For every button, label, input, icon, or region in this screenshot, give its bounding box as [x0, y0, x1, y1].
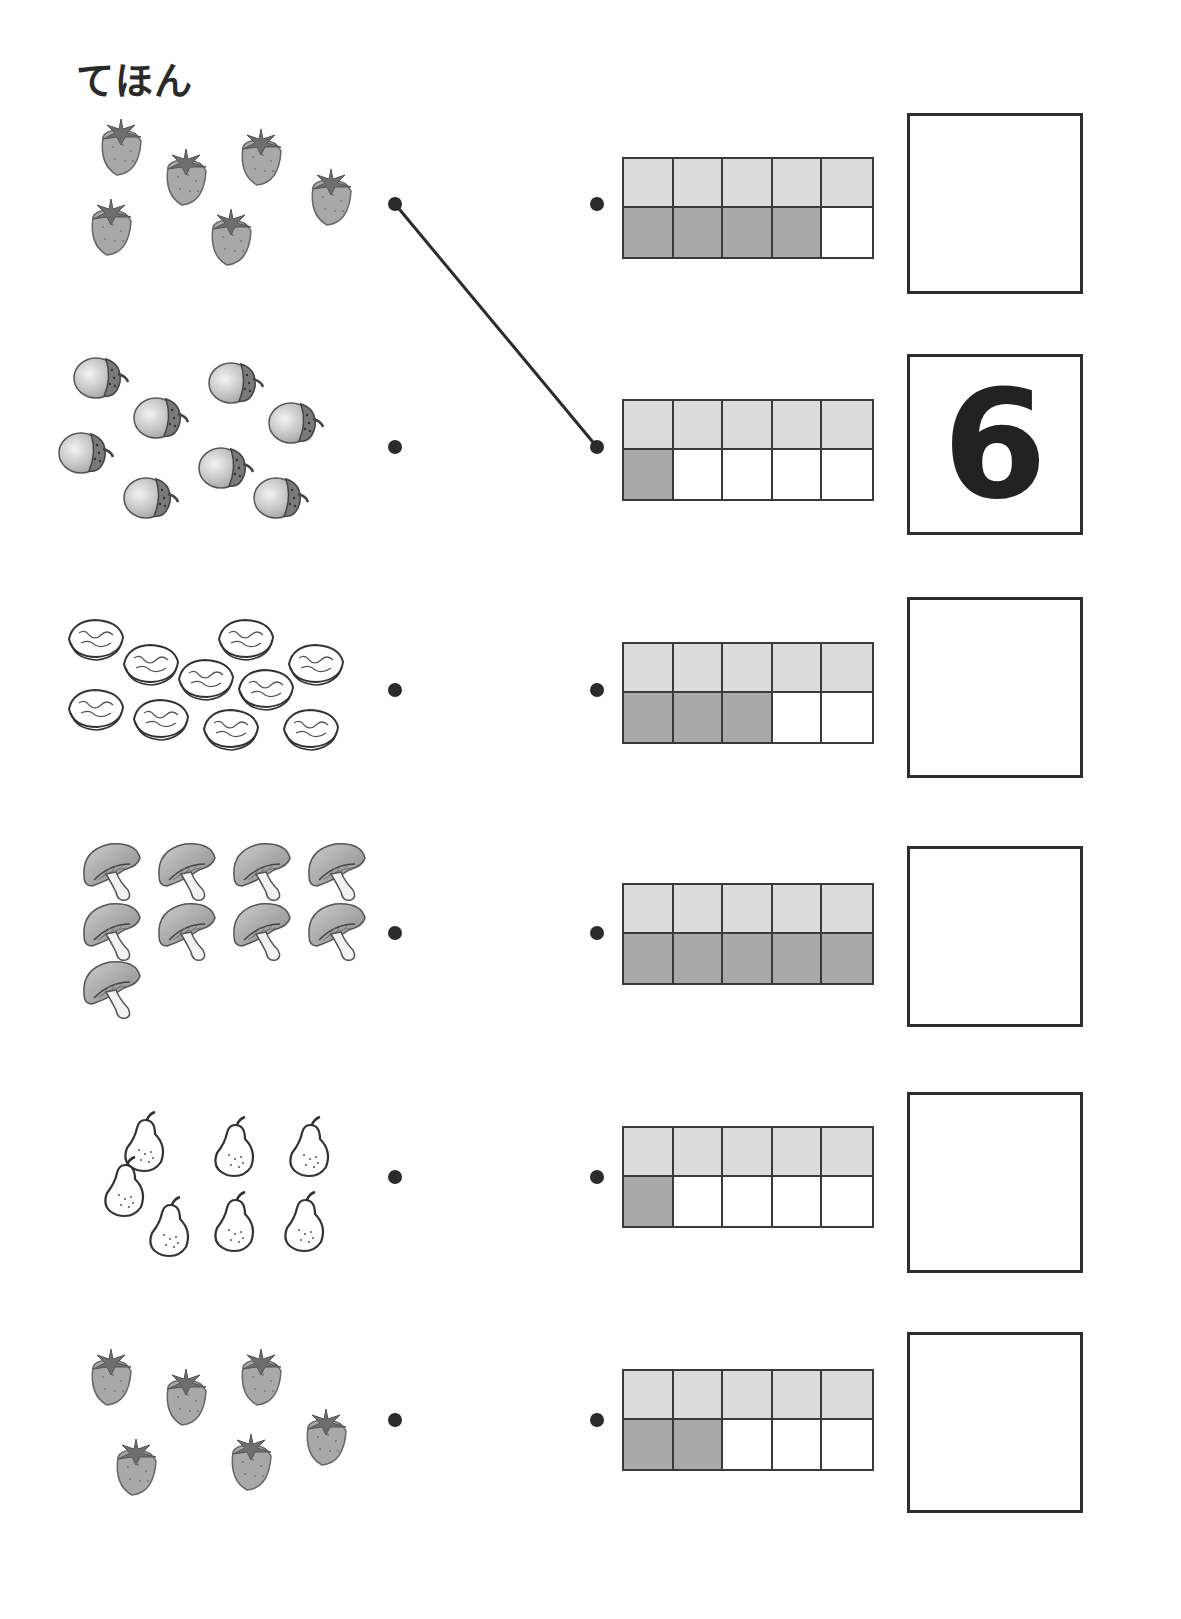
ten-frame	[622, 1369, 874, 1471]
left-match-dot[interactable]	[388, 1413, 402, 1427]
left-match-dot[interactable]	[388, 440, 402, 454]
ten-frame-cell-top	[822, 1371, 872, 1420]
picture-group-strawberry	[55, 1325, 375, 1525]
ten-frame-cell-top	[822, 1128, 872, 1177]
strawberry-icon	[235, 125, 287, 191]
acorn-icon	[195, 440, 257, 498]
ten-frame-cell-top	[822, 159, 872, 208]
right-match-dot[interactable]	[590, 1413, 604, 1427]
ten-frame-cell-top	[773, 1128, 823, 1177]
right-match-dot[interactable]	[590, 197, 604, 211]
answer-number: 6	[943, 370, 1047, 520]
ten-frame-cell-top	[723, 401, 773, 450]
mushroom-icon	[305, 900, 371, 970]
picture-group-strawberry	[55, 105, 375, 305]
ten-frame-cell-top	[822, 644, 872, 693]
picture-group-walnut	[55, 595, 375, 795]
ten-frame-cell-filled	[624, 934, 674, 983]
page-title: てほん	[76, 50, 193, 105]
acorn-icon	[70, 350, 132, 408]
ten-frame-cell-top	[674, 1371, 724, 1420]
strawberry-icon	[160, 1365, 212, 1431]
ten-frame-cell-top	[624, 644, 674, 693]
ten-frame-cell-empty	[674, 1177, 724, 1226]
strawberry-icon	[305, 165, 357, 231]
ten-frame-cell-top	[624, 1371, 674, 1420]
ten-frame-cell-top	[723, 885, 773, 934]
answer-box[interactable]: 6	[907, 354, 1083, 535]
right-match-dot[interactable]	[590, 440, 604, 454]
right-match-dot[interactable]	[590, 683, 604, 697]
ten-frame	[622, 399, 874, 501]
strawberry-icon	[300, 1405, 352, 1471]
ten-frame-cell-filled	[624, 1420, 674, 1469]
strawberry-icon	[110, 1435, 162, 1501]
acorn-icon	[250, 470, 312, 528]
walnut-icon	[65, 615, 127, 665]
ten-frame-cell-filled	[624, 208, 674, 257]
acorn-icon	[130, 390, 192, 448]
ten-frame-cell-filled	[674, 1420, 724, 1469]
picture-group-mushroom	[55, 830, 375, 1030]
ten-frame-cell-empty	[773, 450, 823, 499]
ten-frame-cell-empty	[822, 693, 872, 742]
ten-frame	[622, 157, 874, 259]
ten-frame-cell-top	[674, 885, 724, 934]
walnut-icon	[65, 685, 127, 735]
ten-frame-cell-filled	[674, 934, 724, 983]
pear-icon	[140, 1195, 200, 1265]
walnut-icon	[280, 705, 342, 755]
ten-frame-cell-filled	[723, 693, 773, 742]
pear-icon	[205, 1115, 265, 1185]
answer-box[interactable]	[907, 1092, 1083, 1273]
pear-icon	[275, 1190, 335, 1260]
ten-frame-cell-filled	[773, 934, 823, 983]
ten-frame-cell-top	[773, 644, 823, 693]
ten-frame-cell-empty	[773, 693, 823, 742]
ten-frame-cell-empty	[822, 1420, 872, 1469]
right-match-dot[interactable]	[590, 926, 604, 940]
walnut-icon	[130, 695, 192, 745]
ten-frame-cell-filled	[674, 693, 724, 742]
picture-group-acorn	[55, 330, 375, 530]
strawberry-icon	[85, 1345, 137, 1411]
ten-frame-cell-top	[773, 401, 823, 450]
strawberry-icon	[205, 205, 257, 271]
pear-icon	[280, 1115, 340, 1185]
answer-box[interactable]	[907, 597, 1083, 778]
left-match-dot[interactable]	[388, 683, 402, 697]
picture-group-pear	[55, 1090, 375, 1290]
mushroom-icon	[155, 900, 221, 970]
ten-frame-cell-filled	[624, 450, 674, 499]
ten-frame-cell-top	[674, 644, 724, 693]
ten-frame-cell-top	[674, 401, 724, 450]
ten-frame-cell-empty	[723, 1420, 773, 1469]
ten-frame-cell-empty	[822, 1177, 872, 1226]
ten-frame-cell-empty	[723, 1177, 773, 1226]
ten-frame-cell-top	[773, 1371, 823, 1420]
ten-frame-cell-empty	[822, 450, 872, 499]
ten-frame-cell-top	[624, 159, 674, 208]
left-match-dot[interactable]	[388, 926, 402, 940]
mushroom-icon	[80, 958, 146, 1028]
right-match-dot[interactable]	[590, 1170, 604, 1184]
left-match-dot[interactable]	[388, 1170, 402, 1184]
ten-frame-cell-filled	[773, 208, 823, 257]
ten-frame-cell-top	[674, 159, 724, 208]
strawberry-icon	[235, 1345, 287, 1411]
strawberry-icon	[160, 145, 212, 211]
ten-frame-cell-filled	[723, 208, 773, 257]
ten-frame-cell-top	[624, 1128, 674, 1177]
answer-box[interactable]	[907, 846, 1083, 1027]
ten-frame-cell-filled	[723, 934, 773, 983]
pear-icon	[205, 1190, 265, 1260]
mushroom-icon	[230, 900, 296, 970]
ten-frame-cell-empty	[773, 1177, 823, 1226]
answer-box[interactable]	[907, 113, 1083, 294]
ten-frame-cell-filled	[822, 934, 872, 983]
ten-frame-cell-filled	[624, 693, 674, 742]
answer-box[interactable]	[907, 1332, 1083, 1513]
left-match-dot[interactable]	[388, 197, 402, 211]
acorn-icon	[205, 355, 267, 413]
ten-frame-cell-top	[674, 1128, 724, 1177]
